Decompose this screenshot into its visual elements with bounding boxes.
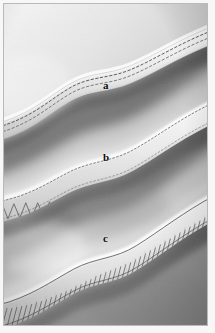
seam-illustration-svg — [4, 4, 207, 325]
specimen-label-c: c — [103, 233, 108, 244]
film-grain — [4, 4, 207, 325]
photo-plate-frame: a b c — [3, 3, 208, 326]
specimen-label-a: a — [103, 80, 109, 91]
specimen-label-b: b — [103, 152, 109, 163]
photograph — [4, 4, 207, 325]
figure-root: a b c Plain seam with two parallel strai… — [0, 0, 215, 333]
